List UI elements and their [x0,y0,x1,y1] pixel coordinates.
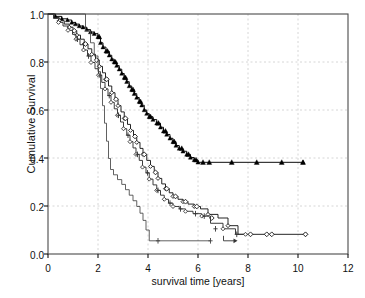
marker-diamond [156,176,160,180]
marker-diamond [82,48,86,52]
marker-diamond [110,91,114,95]
x-tick-label-8: 8 [233,263,263,274]
series-group-open-diamond-a [48,14,308,237]
series-group-triangle [48,14,305,164]
marker-diamond [226,224,230,228]
y-tick-label-0_0: 0.0 [14,250,44,261]
x-tick-label-4: 4 [133,263,163,274]
marker-plus [208,238,212,244]
marker-diamond [89,60,93,64]
y-tick-label-0_6: 0.6 [14,106,44,117]
censor-arrow-annotation [224,236,238,243]
step-curve-group-open-diamond-a [48,14,306,234]
marker-plus [156,238,160,244]
marker-diamond [264,232,269,237]
survival-chart-figure: Cumulative Survival survival time [years… [0,0,365,298]
marker-diamond [116,104,120,108]
marker-diamond [109,100,113,104]
marker-diamond [103,87,107,91]
marker-diamond [122,127,126,131]
marker-diamond [149,164,153,168]
marker-plus [193,211,197,217]
x-tick-label-6: 6 [183,263,213,274]
marker-plus [213,226,217,232]
marker-diamond [129,128,133,132]
marker-diamond [75,33,79,37]
marker-diamond [184,209,188,213]
x-tick-label-0: 0 [33,263,63,274]
y-tick-label-0_8: 0.8 [14,58,44,69]
arrow-head-icon [234,238,238,243]
y-tick-label-0_4: 0.4 [14,154,44,165]
marker-diamond [135,140,139,144]
y-tick-label-0_2: 0.2 [14,202,44,213]
x-tick-label-2: 2 [83,263,113,274]
y-tick-label-1_0: 1.0 [14,10,44,21]
marker-diamond [244,232,248,236]
step-curve-group-plain-step [48,14,211,241]
step-curve-group-triangle [48,14,303,162]
x-tick-label-12: 12 [333,263,363,274]
marker-diamond [248,232,253,237]
marker-diamond [141,165,145,169]
marker-diamond [128,140,132,144]
marker-diamond [221,227,225,231]
marker-diamond [171,204,175,208]
marker-diamond [162,197,166,201]
marker-diamond [269,232,274,237]
marker-diamond [303,232,308,237]
step-curve-group-open-diamond-b [48,14,246,234]
x-axis-title: survival time [years] [48,275,348,287]
chart-canvas [0,0,365,298]
x-tick-label-10: 10 [283,263,313,274]
